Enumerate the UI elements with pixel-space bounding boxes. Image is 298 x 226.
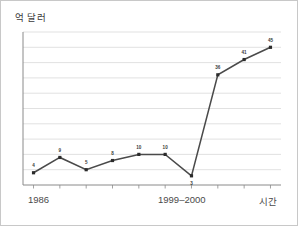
x-tick-label-1999-2000: 1999–2000 (158, 194, 206, 205)
data-point-labels-group: 495810103364145 (32, 38, 273, 187)
data-point-label: 10 (136, 145, 142, 150)
data-point-label: 36 (215, 65, 221, 70)
data-point-label: 5 (85, 160, 88, 165)
plot-area: 495810103364145 (23, 32, 281, 185)
data-point-label: 45 (268, 38, 274, 43)
data-point-label: 4 (32, 163, 35, 168)
data-point-marker (164, 153, 167, 156)
data-point-marker (216, 73, 219, 76)
data-point-marker (137, 153, 140, 156)
data-point-marker (269, 46, 272, 49)
x-axis-title: 시간 (259, 194, 277, 208)
x-tick-label-1986: 1986 (28, 194, 49, 205)
data-point-label: 3 (190, 181, 193, 186)
y-axis-title: 억 달러 (15, 10, 46, 24)
data-point-label: 10 (163, 145, 169, 150)
data-point-marker (32, 171, 35, 174)
data-point-marker (111, 159, 114, 162)
data-point-label: 8 (111, 151, 114, 156)
x-tickmarks-group (34, 185, 271, 189)
data-point-marker (58, 156, 61, 159)
data-markers-group (32, 46, 272, 178)
line-chart-svg: 495810103364145 (23, 32, 281, 185)
data-point-label: 9 (59, 148, 62, 153)
data-point-marker (190, 174, 193, 177)
chart-figure: 억 달러 495810103364145 1986 1999–2000 시간 (0, 0, 298, 226)
data-point-marker (85, 168, 88, 171)
data-point-label: 41 (242, 50, 248, 55)
data-point-marker (243, 58, 246, 61)
data-line (34, 47, 271, 176)
